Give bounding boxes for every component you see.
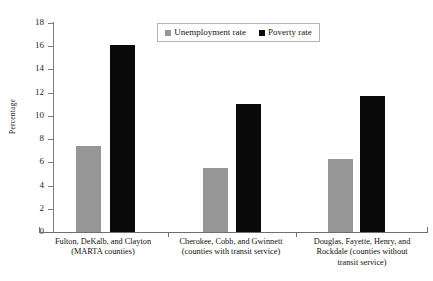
x-axis-left-endcap — [39, 227, 40, 233]
legend-item-poverty-rate: Poverty rate — [259, 28, 312, 37]
x-axis-category-label-2: Cherokee, Cobb, and Gwinnett(counties wi… — [168, 237, 294, 258]
bar-poverty-rate-group-3 — [360, 96, 385, 232]
y-axis-tick — [48, 186, 54, 187]
y-axis-tick-label: 14 — [22, 64, 44, 73]
y-axis-tick-label: 2 — [22, 204, 44, 213]
y-axis-tick-label: 18 — [22, 18, 44, 27]
y-axis-tick — [48, 93, 54, 94]
category-label-line: (MARTA counties) — [43, 247, 163, 257]
category-label-line: Cherokee, Cobb, and Gwinnett — [168, 237, 294, 247]
y-axis-title: Percentage — [8, 77, 17, 157]
x-axis-right-endcap — [427, 227, 428, 233]
y-axis-tick — [48, 116, 54, 117]
y-axis-tick — [48, 209, 54, 210]
y-axis-tick — [48, 46, 54, 47]
bar-chart: Percentage 024681012141618 Fulton, DeKal… — [0, 0, 433, 281]
y-axis-tick-label: 6 — [22, 157, 44, 166]
x-axis-category-label-1: Fulton, DeKalb, and Clayton(MARTA counti… — [43, 237, 163, 258]
category-label-line: Fulton, DeKalb, and Clayton — [43, 237, 163, 247]
y-axis-line — [53, 22, 54, 232]
chart-legend: Unemployment rate Poverty rate — [157, 23, 320, 42]
category-label-line: Douglas, Fayette, Henry, and — [297, 237, 427, 247]
category-label-line: (counties with transit service) — [168, 247, 294, 257]
y-axis-tick — [48, 23, 54, 24]
x-axis-line — [39, 232, 428, 233]
y-axis-tick-label: 12 — [22, 88, 44, 97]
legend-item-unemployment-rate: Unemployment rate — [165, 28, 246, 37]
category-label-line: transit service) — [297, 258, 427, 268]
bar-poverty-rate-group-1 — [110, 45, 135, 232]
category-label-line: Rockdale (counties without — [297, 247, 427, 257]
y-axis-tick — [48, 69, 54, 70]
legend-label-unemployment-rate: Unemployment rate — [174, 28, 246, 37]
bar-unemployment-rate-group-2 — [203, 168, 228, 232]
bar-unemployment-rate-group-3 — [328, 159, 353, 232]
bar-unemployment-rate-group-1 — [76, 146, 101, 232]
legend-swatch-icon-unemployment-rate — [165, 30, 171, 36]
y-axis-tick-label: 8 — [22, 134, 44, 143]
y-axis-tick — [48, 139, 54, 140]
y-axis-tick-label: 10 — [22, 111, 44, 120]
cropped-header-sliver — [0, 0, 433, 10]
bar-poverty-rate-group-2 — [236, 104, 261, 232]
legend-label-poverty-rate: Poverty rate — [268, 28, 312, 37]
y-axis-tick — [48, 162, 54, 163]
legend-swatch-icon-poverty-rate — [259, 30, 265, 36]
y-axis-tick-label: 4 — [22, 181, 44, 190]
x-axis-category-label-3: Douglas, Fayette, Henry, andRockdale (co… — [297, 237, 427, 268]
y-axis-tick-label: 16 — [22, 41, 44, 50]
